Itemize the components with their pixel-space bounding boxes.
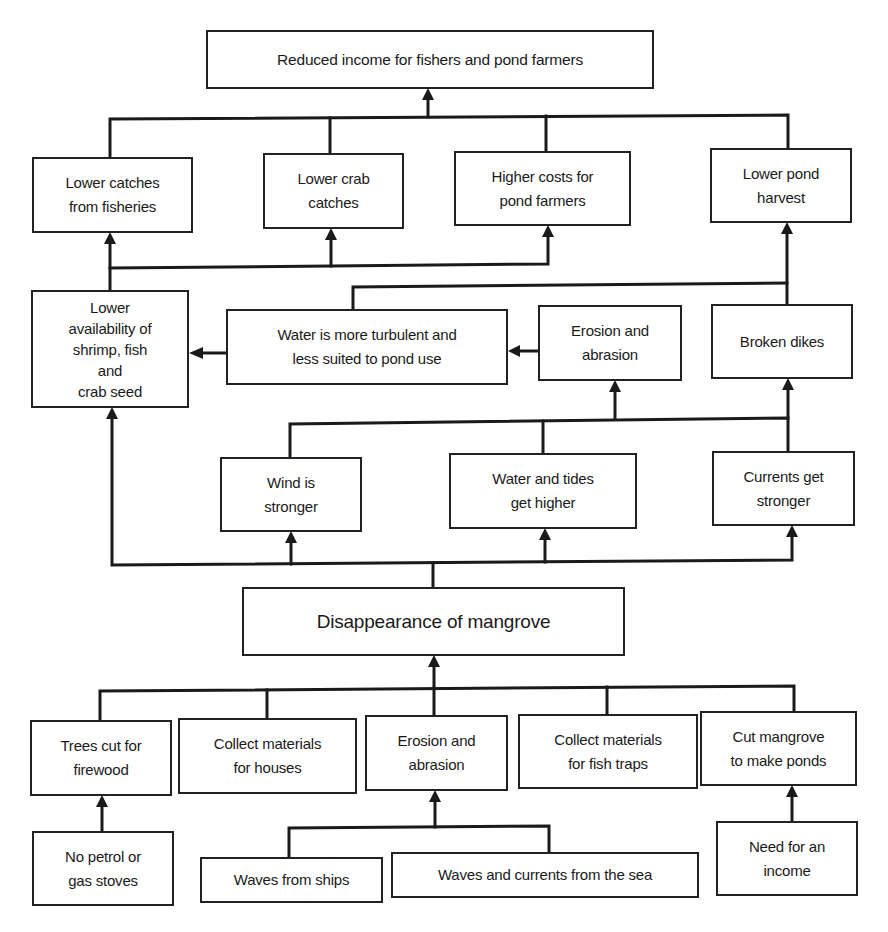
node-label: Collect materials for houses	[214, 732, 321, 780]
node-label: Collect materials for fish traps	[554, 728, 661, 776]
node-disappearance-mangrove: Disappearance of mangrove	[242, 587, 625, 656]
node-label: Lower catches from fisheries	[65, 171, 159, 219]
node-erosion-lower: Erosion and abrasion	[365, 715, 508, 791]
node-label: Reduced income for fishers and pond farm…	[277, 48, 583, 72]
node-label: Disappearance of mangrove	[317, 610, 551, 634]
node-label: Currents get stronger	[743, 465, 823, 513]
node-collect-traps: Collect materials for fish traps	[518, 714, 698, 789]
node-collect-houses: Collect materials for houses	[178, 718, 357, 794]
node-no-petrol: No petrol or gas stoves	[32, 831, 174, 906]
node-label: Wind is stronger	[264, 471, 317, 519]
node-need-income: Need for an income	[716, 821, 858, 896]
node-trees-cut: Trees cut for firewood	[30, 720, 172, 796]
node-water-turbulent: Water is more turbulent and less suited …	[226, 309, 508, 385]
node-label: Erosion and abrasion	[398, 729, 476, 777]
node-wind-stronger: Wind is stronger	[220, 457, 362, 532]
node-higher-costs: Higher costs for pond farmers	[454, 151, 631, 226]
node-label: Need for an income	[749, 835, 825, 883]
node-waves-ships: Waves from ships	[200, 857, 383, 903]
node-cut-mangrove: Cut mangrove to make ponds	[700, 711, 857, 786]
node-label: No petrol or gas stoves	[65, 845, 141, 893]
node-lower-crab: Lower crab catches	[263, 153, 404, 229]
node-label: Trees cut for firewood	[60, 734, 141, 782]
node-water-tides: Water and tides get higher	[449, 453, 637, 529]
node-label: Water and tides get higher	[492, 467, 594, 515]
node-label: Water is more turbulent and less suited …	[277, 323, 456, 371]
problem-tree-diagram: Reduced income for fishers and pond farm…	[0, 0, 888, 932]
node-label: Lower pond harvest	[743, 162, 819, 210]
node-lower-pond: Lower pond harvest	[710, 148, 852, 223]
node-label: Lower crab catches	[297, 167, 369, 215]
node-broken-dikes: Broken dikes	[711, 304, 853, 379]
node-label: Waves from ships	[234, 868, 349, 892]
node-waves-sea: Waves and currents from the sea	[391, 852, 699, 898]
node-erosion-upper: Erosion and abrasion	[538, 305, 682, 381]
node-currents-stronger: Currents get stronger	[712, 451, 855, 526]
arrowheads	[96, 88, 798, 807]
node-label: Cut mangrove to make ponds	[731, 725, 827, 773]
node-label: Lower availability of shrimp, fish and c…	[69, 297, 152, 402]
node-label: Erosion and abrasion	[571, 319, 649, 367]
node-label: Waves and currents from the sea	[438, 863, 652, 887]
node-lower-catches: Lower catches from fisheries	[32, 157, 193, 233]
node-reduced-income: Reduced income for fishers and pond farm…	[206, 30, 654, 89]
node-label: Higher costs for pond farmers	[492, 165, 594, 213]
node-label: Broken dikes	[740, 330, 824, 354]
node-lower-availability: Lower availability of shrimp, fish and c…	[31, 290, 189, 408]
